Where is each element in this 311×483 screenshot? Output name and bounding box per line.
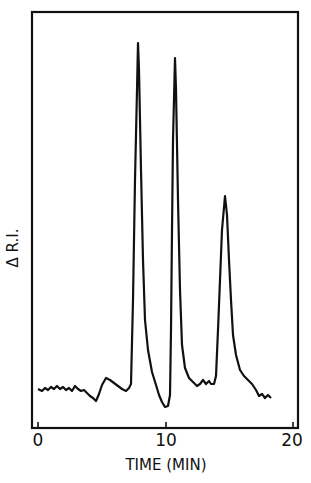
x-tick-label-0: 0: [33, 430, 44, 450]
chromatogram-chart: 0 10 20 TIME (MIN) Δ R.I.: [0, 0, 311, 483]
plot-frame: [32, 12, 298, 428]
x-tick-label-10: 10: [155, 430, 177, 450]
chromatogram-trace: [38, 43, 271, 407]
x-tick-label-20: 20: [281, 430, 303, 450]
x-axis-title: TIME (MIN): [124, 456, 206, 474]
y-axis-title: Δ R.I.: [4, 229, 22, 268]
